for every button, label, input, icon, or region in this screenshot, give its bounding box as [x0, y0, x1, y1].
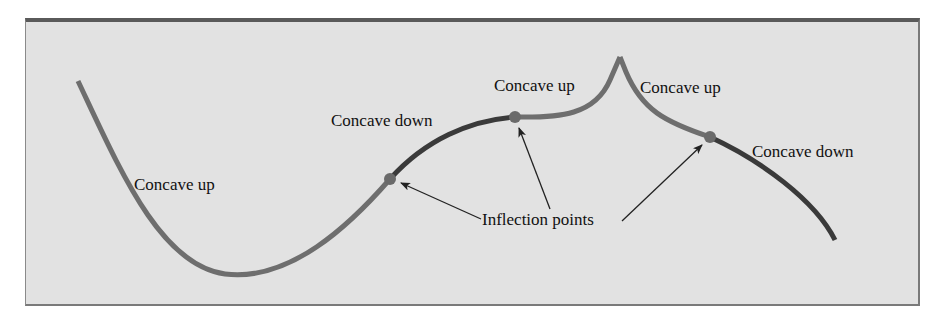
label-concave-up-before-cusp: Concave up	[494, 77, 575, 94]
label-concave-down-right: Concave down	[752, 143, 854, 160]
arrow-to-inflection-3	[622, 145, 702, 221]
label-concave-up-after-cusp: Concave up	[640, 79, 721, 96]
curve-segment-concave-up-3	[620, 57, 710, 137]
label-concave-down-middle: Concave down	[331, 112, 433, 129]
concavity-diagram	[0, 0, 937, 325]
inflection-point-dot-2	[509, 111, 521, 123]
inflection-point-dot-1	[384, 173, 396, 185]
arrow-to-inflection-1	[401, 183, 481, 219]
label-concave-up-left: Concave up	[134, 176, 215, 193]
arrow-to-inflection-2	[519, 128, 550, 209]
label-inflection-points: Inflection points	[482, 211, 594, 228]
inflection-point-dot-3	[704, 131, 716, 143]
